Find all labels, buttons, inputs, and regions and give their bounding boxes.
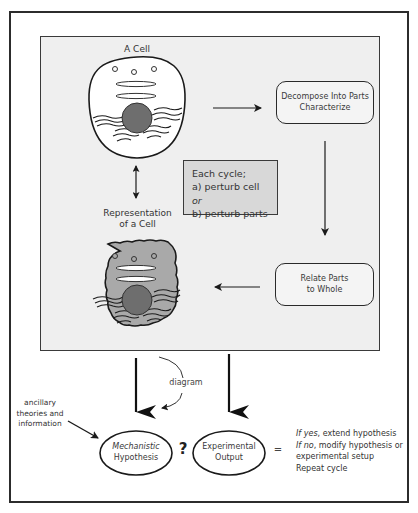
ancillary-line3: information bbox=[10, 419, 70, 430]
outcome-text: If yes, extend hypothesis If no, modify … bbox=[296, 428, 403, 474]
outcome-no: If no, modify hypothesis or bbox=[296, 440, 403, 452]
outcome-no-text-2: experimental setup bbox=[296, 451, 403, 463]
experimental-label: Experimental Output bbox=[193, 431, 265, 475]
diagram-curve-top bbox=[159, 357, 183, 378]
equals-symbol: = bbox=[272, 444, 284, 456]
experimental-line1: Experimental bbox=[202, 442, 255, 453]
cell-illustration bbox=[89, 57, 185, 158]
hypothesis-label: Mechanistic Hypothesis bbox=[100, 431, 172, 475]
cycle-line2: a) perturb cell or bbox=[192, 180, 269, 207]
ancillary-label: ancillary theories and information bbox=[10, 398, 70, 430]
outcome-no-prefix: If no bbox=[296, 441, 314, 450]
outcome-no-text: , modify hypothesis or bbox=[314, 441, 403, 450]
representation-title-line2: of a Cell bbox=[90, 219, 185, 230]
diagram-label: diagram bbox=[166, 378, 206, 388]
relate-line2: to Whole bbox=[301, 285, 349, 296]
decompose-line1: Decompose Into Parts bbox=[281, 92, 369, 103]
hypothesis-line2: Hypothesis bbox=[112, 453, 159, 464]
arrow-ancillary bbox=[68, 421, 98, 438]
outcome-yes-prefix: If yes bbox=[296, 429, 318, 438]
relate-line1: Relate Parts bbox=[301, 274, 349, 285]
outcome-yes: If yes, extend hypothesis bbox=[296, 428, 403, 440]
comparison-symbol: ? bbox=[174, 440, 192, 458]
decompose-box: Decompose Into Parts Characterize bbox=[276, 81, 374, 124]
cycle-line2-italic: or bbox=[192, 195, 202, 206]
experimental-line2: Output bbox=[202, 453, 255, 464]
outcome-yes-text: , extend hypothesis bbox=[318, 429, 397, 438]
cycle-line1: Each cycle; bbox=[192, 167, 269, 180]
ancillary-line1: ancillary bbox=[10, 398, 70, 409]
representation-title-line1: Representation bbox=[90, 208, 185, 219]
cycle-line3: b) perturb parts bbox=[192, 207, 269, 220]
relate-box: Relate Parts to Whole bbox=[275, 263, 374, 306]
cell-representation-illustration bbox=[93, 240, 180, 326]
cycle-line2-text: a) perturb cell bbox=[192, 181, 259, 192]
ancillary-line2: theories and bbox=[10, 409, 70, 420]
decompose-line2: Characterize bbox=[281, 103, 369, 114]
diagram-curve-bottom bbox=[162, 393, 182, 408]
hypothesis-line1: Mechanistic bbox=[112, 442, 159, 453]
cycle-box: Each cycle; a) perturb cell or b) pertur… bbox=[183, 160, 278, 215]
outcome-repeat: Repeat cycle bbox=[296, 463, 403, 475]
representation-title: Representation of a Cell bbox=[90, 208, 185, 230]
cell-title: A Cell bbox=[107, 44, 167, 55]
